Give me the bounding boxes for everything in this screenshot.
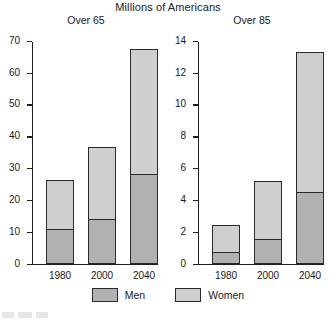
- x-axis-label-2040: 2040: [288, 270, 332, 281]
- y-axis-tick-label: 8: [180, 131, 186, 141]
- bar-segment-men: [213, 252, 239, 263]
- legend-item-men: Men: [92, 288, 145, 302]
- y-axis-tick-label: 70: [9, 36, 20, 46]
- bar-segment-women: [255, 182, 281, 240]
- y-axis-tick: 40: [27, 136, 32, 137]
- y-axis-tick-label: 2: [180, 227, 186, 237]
- bar-segment-women: [131, 50, 157, 175]
- y-axis-tick: 6: [193, 168, 198, 169]
- y-axis-tick: 70: [27, 41, 32, 42]
- bar-over-65-2040: [130, 49, 158, 264]
- y-axis-tick: 10: [193, 104, 198, 105]
- bar-segment-men: [89, 219, 115, 263]
- x-axis-line-over-85: [198, 264, 324, 265]
- y-axis-tick-label: 0: [180, 259, 186, 269]
- y-axis-tick-label: 30: [9, 163, 20, 173]
- legend-label-men: Men: [125, 289, 145, 301]
- y-axis-tick: 8: [193, 136, 198, 137]
- y-axis-tick-label: 4: [180, 195, 186, 205]
- page-footer-artifact: [2, 312, 48, 318]
- y-axis-tick-label: 6: [180, 163, 186, 173]
- y-axis-tick-label: 50: [9, 99, 20, 109]
- bar-segment-women: [47, 181, 73, 228]
- bar-over-65-2000: [88, 147, 116, 263]
- bar-segment-men: [255, 239, 281, 262]
- y-axis-tick: 30: [27, 168, 32, 169]
- y-axis-tick: 14: [193, 41, 198, 42]
- x-axis-label-2000: 2000: [80, 270, 124, 281]
- bar-over-85-2040: [296, 52, 324, 264]
- x-axis-label-1980: 1980: [38, 270, 82, 281]
- y-axis-tick: 0: [193, 264, 198, 265]
- bar-segment-women: [213, 226, 239, 252]
- chart-title: Millions of Americans: [0, 1, 336, 13]
- y-axis-tick: 20: [27, 200, 32, 201]
- y-axis-tick: 60: [27, 73, 32, 74]
- chart-panel-over-65: Over 65 010203040506070198020002040: [4, 14, 168, 272]
- y-axis-tick: 4: [193, 200, 198, 201]
- x-axis-label-2000: 2000: [246, 270, 290, 281]
- legend-label-women: Women: [208, 289, 244, 301]
- chart-legend: Men Women: [0, 288, 336, 302]
- legend-swatch-women-icon: [175, 288, 201, 302]
- bar-over-85-1980: [212, 225, 240, 263]
- y-axis-tick: 0: [27, 264, 32, 265]
- bar-segment-women: [297, 53, 323, 192]
- legend-swatch-men-icon: [92, 288, 118, 302]
- x-axis-label-2040: 2040: [122, 270, 166, 281]
- x-axis-label-1980: 1980: [204, 270, 248, 281]
- y-axis-tick-label: 14: [175, 36, 186, 46]
- y-axis-tick-label: 0: [14, 259, 20, 269]
- panel-title-over-65: Over 65: [4, 14, 168, 26]
- y-axis-tick-label: 12: [175, 68, 186, 78]
- chart-panel-over-85: Over 85 02468101214198020002040: [170, 14, 334, 272]
- plot-area-over-65: 010203040506070198020002040: [32, 42, 158, 265]
- chart-figure: Millions of Americans Over 65 0102030405…: [0, 0, 336, 321]
- y-axis-tick: 2: [193, 232, 198, 233]
- legend-item-women: Women: [175, 288, 244, 302]
- y-axis-line-over-85: [198, 42, 199, 265]
- y-axis-tick: 10: [27, 232, 32, 233]
- plot-area-over-85: 02468101214198020002040: [198, 42, 324, 265]
- bar-segment-men: [297, 192, 323, 263]
- bar-over-65-1980: [46, 180, 74, 263]
- y-axis-tick: 12: [193, 73, 198, 74]
- bar-segment-men: [131, 174, 157, 262]
- y-axis-line-over-65: [32, 42, 33, 265]
- y-axis-tick-label: 10: [175, 99, 186, 109]
- y-axis-tick: 50: [27, 104, 32, 105]
- y-axis-tick-label: 60: [9, 68, 20, 78]
- panel-title-over-85: Over 85: [170, 14, 334, 26]
- bar-segment-men: [47, 229, 73, 263]
- y-axis-tick-label: 20: [9, 195, 20, 205]
- bar-over-85-2000: [254, 181, 282, 264]
- bar-segment-women: [89, 148, 115, 218]
- y-axis-tick-label: 10: [9, 227, 20, 237]
- y-axis-tick-label: 40: [9, 131, 20, 141]
- x-axis-line-over-65: [32, 264, 158, 265]
